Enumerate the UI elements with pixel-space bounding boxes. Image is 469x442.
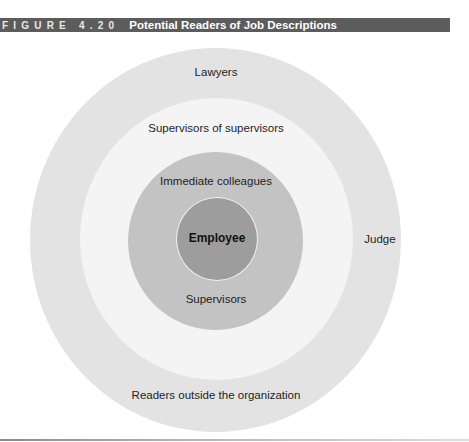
label-readers-outside-organization: Readers outside the organization: [132, 389, 301, 401]
bottom-rule: [0, 439, 469, 441]
label-supervisors-of-supervisors: Supervisors of supervisors: [148, 122, 284, 134]
label-employee: Employee: [189, 231, 246, 245]
label-immediate-colleagues: Immediate colleagues: [160, 175, 272, 187]
figure-label: FIGURE: [2, 20, 71, 31]
label-judge: Judge: [364, 233, 395, 245]
label-supervisors: Supervisors: [186, 293, 247, 305]
figure-title: Potential Readers of Job Descriptions: [129, 19, 337, 31]
figure-header: FIGURE 4.20 Potential Readers of Job Des…: [0, 18, 450, 32]
label-lawyers: Lawyers: [195, 66, 238, 78]
figure-number: 4.20: [79, 20, 119, 31]
